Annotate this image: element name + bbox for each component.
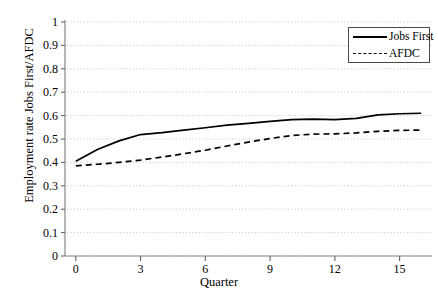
series-line: [76, 130, 421, 166]
legend-swatch-solid-icon: [353, 36, 387, 38]
chart-legend: Jobs First AFDC: [348, 27, 430, 63]
x-axis-title: Quarter: [0, 275, 438, 290]
legend-label: AFDC: [389, 47, 420, 59]
legend-label: Jobs First: [389, 30, 433, 42]
legend-swatch-dashed-icon: [353, 53, 387, 54]
series-line: [76, 113, 421, 161]
legend-item-afdc: AFDC: [349, 45, 431, 63]
chart-container: Employment rate Jobs First/AFDC 00.10.20…: [0, 0, 438, 304]
data-series: [76, 113, 421, 166]
x-tick-marks: [76, 256, 400, 261]
legend-item-jobs-first: Jobs First: [349, 28, 431, 46]
